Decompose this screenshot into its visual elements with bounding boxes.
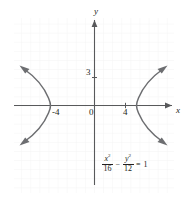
origin-label: 0 <box>89 108 94 117</box>
minus-operator: − <box>116 160 121 169</box>
y-axis-label: y <box>94 7 98 16</box>
x-axis-label: x <box>176 106 180 115</box>
equals-operator: = <box>136 160 141 169</box>
y-term-numerator: y2 <box>124 155 132 164</box>
equation-right-side: 1 <box>144 160 148 169</box>
x-tick-label-neg4: -4 <box>52 108 60 117</box>
y-exponent: 2 <box>129 153 132 158</box>
y-tick-label-3: 3 <box>86 68 91 77</box>
plot-canvas <box>0 0 188 197</box>
x-term-numerator: x2 <box>103 155 111 164</box>
y-term-denominator: 12 <box>123 165 133 174</box>
x-tick-label-pos4: 4 <box>123 108 128 117</box>
hyperbola-equation: x2 16 − y2 12 = 1 <box>101 155 148 173</box>
hyperbola-graph-figure: y x 0 -4 4 3 x2 16 − y2 12 = 1 <box>0 0 188 197</box>
y-term-fraction: y2 12 <box>123 155 134 173</box>
x-term-fraction: x2 16 <box>102 155 113 173</box>
x-exponent: 2 <box>108 153 111 158</box>
x-term-denominator: 16 <box>103 165 113 174</box>
